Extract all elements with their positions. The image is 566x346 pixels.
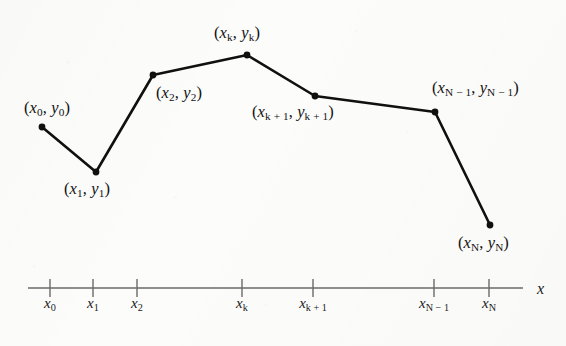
tick-label-xk: xk bbox=[236, 296, 248, 313]
tick-label-xN: xN bbox=[482, 296, 496, 313]
x-axis-name: x bbox=[537, 281, 544, 297]
polyline-segment bbox=[42, 127, 96, 172]
label-xN-yN: (xN, yN) bbox=[458, 235, 509, 253]
data-point-marker bbox=[312, 93, 319, 100]
label-x1-y1: (x1, y1) bbox=[64, 181, 110, 199]
tick-label-xN1: xN − 1 bbox=[419, 296, 449, 313]
label-xk1-yk1: (xk + 1, yk + 1) bbox=[252, 104, 334, 122]
polyline-segment bbox=[247, 55, 315, 96]
data-point-marker bbox=[487, 222, 494, 229]
data-point-marker bbox=[150, 72, 157, 79]
polyline-path-group bbox=[42, 55, 490, 225]
tick-label-x2: x2 bbox=[131, 296, 143, 313]
polyline-segment bbox=[153, 55, 247, 75]
polyline-segment bbox=[96, 75, 153, 172]
figure-container: (x0, y0)(x1, y1)(x2, y2)(xk, yk)(xk + 1,… bbox=[0, 0, 566, 346]
label-x2-y2: (x2, y2) bbox=[156, 85, 202, 103]
label-xk-yk: (xk, yk) bbox=[214, 25, 260, 43]
data-point-marker bbox=[244, 52, 251, 59]
tick-label-x1: x1 bbox=[87, 296, 99, 313]
label-xN1-yN1: (xN − 1, yN − 1) bbox=[432, 80, 519, 98]
data-point-marker bbox=[432, 109, 439, 116]
tick-label-xk1: xk + 1 bbox=[299, 296, 327, 313]
polyline-segment bbox=[435, 112, 490, 225]
data-point-marker bbox=[93, 169, 100, 176]
x-axis-group bbox=[28, 279, 523, 297]
data-point-markers bbox=[39, 52, 494, 229]
data-point-marker bbox=[39, 124, 46, 131]
tick-label-x0: x0 bbox=[44, 296, 56, 313]
label-x0-y0: (x0, y0) bbox=[24, 100, 70, 118]
